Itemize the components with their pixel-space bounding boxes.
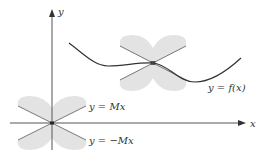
label-curve: y = f(x) (207, 82, 246, 93)
lipschitz-diagram: y x y = Mx y = −Mx y = f(x) (0, 0, 268, 155)
y-axis-label: y (57, 6, 64, 17)
x-axis-arrow-icon (238, 120, 246, 126)
label-y-neg-Mx: y = −Mx (88, 135, 134, 146)
x-axis-label: x (250, 118, 256, 129)
label-y-Mx: y = Mx (88, 101, 126, 112)
y-axis-arrow-icon (49, 9, 55, 17)
origin-point (50, 122, 54, 125)
curve-point (151, 62, 155, 65)
